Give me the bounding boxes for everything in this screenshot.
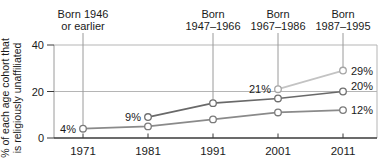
x-tick-label: 1991 bbox=[200, 145, 226, 157]
x-tick-label: 2001 bbox=[265, 145, 291, 157]
series-line bbox=[148, 92, 343, 118]
data-point bbox=[340, 67, 347, 74]
data-point bbox=[145, 114, 152, 121]
data-point-label: 12% bbox=[351, 104, 373, 116]
cohort-label: 1967–1986 bbox=[250, 20, 305, 32]
x-tick-label: 1981 bbox=[135, 145, 161, 157]
y-tick-label: 40 bbox=[32, 39, 44, 51]
y-axis-title: is religiously unaffiliated bbox=[11, 42, 23, 153]
data-point-label: 20% bbox=[351, 80, 373, 92]
cohort-label: Born bbox=[201, 8, 224, 20]
data-point bbox=[145, 123, 152, 130]
chart-canvas: 0204019711981199120012011Born 1946or ear… bbox=[0, 0, 384, 167]
y-axis-title: % of each age cohort that bbox=[0, 38, 11, 158]
cohort-label: 1987–1995 bbox=[315, 20, 370, 32]
data-point bbox=[275, 95, 282, 102]
data-point bbox=[210, 100, 217, 107]
data-point bbox=[275, 109, 282, 116]
data-point-label: 21% bbox=[249, 83, 271, 95]
x-tick-label: 2011 bbox=[331, 145, 356, 157]
data-point bbox=[340, 107, 347, 114]
cohort-label: or earlier bbox=[61, 20, 105, 32]
y-tick-label: 20 bbox=[32, 86, 44, 98]
data-point-label: 29% bbox=[351, 65, 373, 77]
data-point bbox=[210, 116, 217, 123]
cohort-label: 1947–1966 bbox=[185, 20, 240, 32]
x-tick-label: 1971 bbox=[70, 145, 96, 157]
cohort-label: Born bbox=[266, 8, 289, 20]
series-line bbox=[278, 71, 343, 90]
data-point bbox=[80, 125, 87, 132]
data-point-label: 9% bbox=[125, 111, 141, 123]
cohort-label: Born 1946 bbox=[58, 8, 109, 20]
data-point bbox=[340, 88, 347, 95]
data-point bbox=[275, 86, 282, 93]
cohort-line-chart: 0204019711981199120012011Born 1946or ear… bbox=[0, 0, 384, 167]
data-point-label: 4% bbox=[60, 123, 76, 135]
y-tick-label: 0 bbox=[38, 132, 44, 144]
cohort-label: Born bbox=[331, 8, 354, 20]
